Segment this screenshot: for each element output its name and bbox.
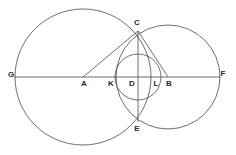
point-label-f: F [221, 70, 226, 78]
geometry-canvas [0, 0, 236, 155]
point-label-d: D [129, 80, 135, 88]
point-label-l: L [154, 80, 159, 88]
segment-cb [138, 31, 168, 77]
geometry-figure: G A K D L B F C E [0, 0, 236, 155]
point-label-g: G [8, 71, 14, 79]
segments-group [14, 31, 220, 122]
segment-ac [83, 31, 138, 77]
point-label-c: C [134, 19, 140, 27]
point-label-e: E [134, 125, 139, 133]
point-label-k: K [108, 80, 114, 88]
point-label-b: B [166, 80, 172, 88]
point-label-a: A [81, 80, 87, 88]
